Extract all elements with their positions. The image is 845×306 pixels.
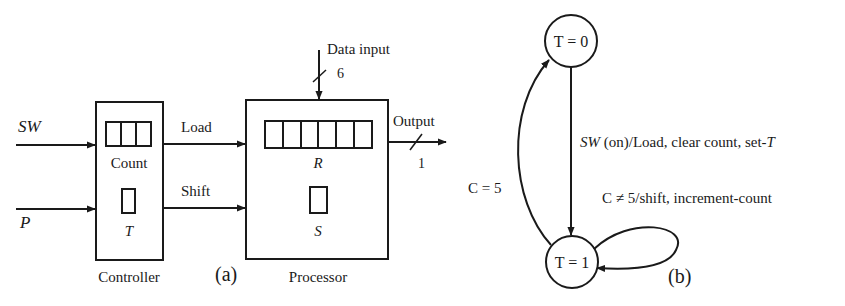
data-input-label: Data input — [327, 41, 391, 57]
t-label: T — [125, 223, 135, 239]
transition-label-t: T — [767, 134, 777, 150]
s-flipflop — [310, 187, 327, 213]
figure-b-caption: (b) — [668, 265, 691, 288]
transition-t0-to-t1-label: SW (on)/Load, clear count, set-T — [580, 134, 777, 151]
state-t1-label: T = 1 — [555, 254, 590, 271]
output-label: Output — [393, 113, 436, 129]
r-register — [265, 121, 372, 148]
figure-a: SW P Count T Controller Load Shift (a) D… — [16, 41, 446, 286]
count-register — [106, 122, 151, 146]
r-label: R — [312, 155, 322, 171]
transition-label-sw: SW — [580, 134, 602, 150]
sw-input-label: SW — [18, 117, 43, 136]
t-flipflop — [122, 189, 135, 213]
controller-label: Controller — [98, 269, 160, 285]
state-t0-label: T = 0 — [554, 33, 589, 50]
processor-label: Processor — [289, 269, 347, 285]
figure-a-caption: (a) — [215, 263, 237, 286]
output-width: 1 — [418, 156, 425, 171]
transition-t1-to-t0-label: C = 5 — [468, 180, 501, 196]
transition-t1-to-t0 — [518, 60, 551, 245]
s-label: S — [314, 223, 322, 239]
transition-label-body: (on)/Load, clear count, set- — [600, 134, 767, 151]
transition-t1-self-loop — [594, 227, 678, 268]
shift-signal-label: Shift — [181, 183, 211, 199]
figure-b: T = 0 T = 1 SW (on)/Load, clear count, s… — [468, 15, 777, 288]
diagram-canvas: SW P Count T Controller Load Shift (a) D… — [0, 0, 845, 306]
transition-t1-self-loop-label: C ≠ 5/shift, increment-count — [602, 190, 773, 206]
p-input-label: P — [19, 213, 30, 232]
load-signal-label: Load — [181, 119, 212, 135]
data-input-width: 6 — [337, 66, 344, 81]
count-label: Count — [111, 155, 149, 171]
